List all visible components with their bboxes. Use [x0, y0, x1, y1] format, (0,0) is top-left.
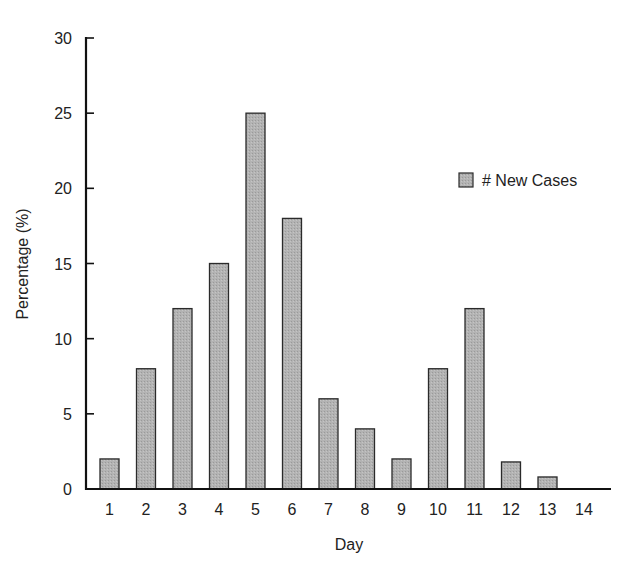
- x-tick-label: 6: [288, 501, 297, 518]
- y-tick-label: 30: [54, 30, 72, 47]
- x-tick-label: 2: [142, 501, 151, 518]
- bar-day-12: [502, 462, 521, 489]
- x-tick-label: 1: [105, 501, 114, 518]
- y-tick-label: 15: [54, 256, 72, 273]
- y-tick-label: 25: [54, 105, 72, 122]
- bar-day-13: [538, 477, 557, 489]
- x-tick-label: 12: [502, 501, 520, 518]
- y-tick-label: 5: [63, 406, 72, 423]
- bar-day-5: [246, 113, 265, 489]
- y-tick-label: 20: [54, 180, 72, 197]
- bar-day-8: [356, 429, 375, 489]
- bar-day-11: [465, 309, 484, 489]
- x-tick-label: 13: [539, 501, 557, 518]
- bar-chart: 051015202530 1234567891011121314 Percent…: [0, 0, 621, 566]
- bar-day-7: [319, 399, 338, 489]
- x-axis-title: Day: [335, 536, 363, 553]
- bar-day-1: [100, 459, 119, 489]
- y-axis-ticks: 051015202530: [54, 30, 94, 498]
- x-tick-label: 9: [397, 501, 406, 518]
- y-tick-label: 0: [63, 481, 72, 498]
- x-tick-label: 14: [575, 501, 593, 518]
- bar-day-2: [137, 369, 156, 489]
- x-tick-label: 11: [466, 501, 483, 518]
- x-tick-label: 8: [361, 501, 370, 518]
- bars-group: [100, 113, 557, 489]
- x-tick-label: 3: [178, 501, 187, 518]
- bar-day-10: [429, 369, 448, 489]
- bar-day-6: [283, 218, 302, 489]
- x-tick-label: 5: [251, 501, 260, 518]
- x-tick-label: 4: [215, 501, 224, 518]
- bar-day-4: [210, 264, 229, 490]
- legend-label: # New Cases: [482, 172, 577, 189]
- bar-day-3: [173, 309, 192, 489]
- legend: # New Cases: [459, 172, 577, 189]
- bar-day-9: [392, 459, 411, 489]
- x-tick-label: 7: [324, 501, 333, 518]
- x-axis-labels: 1234567891011121314: [105, 501, 593, 518]
- legend-swatch: [459, 173, 473, 187]
- x-tick-label: 10: [429, 501, 447, 518]
- y-tick-label: 10: [54, 331, 72, 348]
- y-axis-title: Percentage (%): [14, 208, 31, 319]
